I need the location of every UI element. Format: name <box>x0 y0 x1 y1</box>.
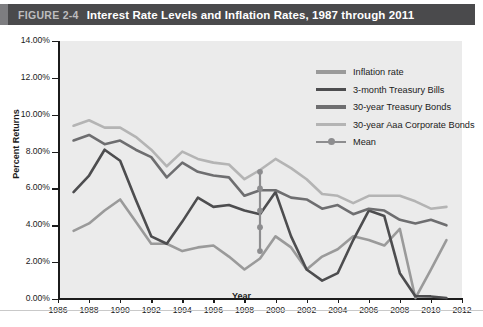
header-accent-block <box>0 4 8 25</box>
legend-item[interactable]: 30-year Treasury Bonds <box>316 102 475 112</box>
legend-line-marker-icon <box>316 141 346 144</box>
mean-marker-point <box>257 208 263 214</box>
mean-marker-point <box>257 169 263 175</box>
legend-item-label: Inflation rate <box>353 67 404 77</box>
mean-marker-point <box>257 248 263 254</box>
mean-marker-point <box>257 224 263 230</box>
legend-line-icon <box>316 123 346 126</box>
legend-line-icon <box>316 88 346 91</box>
legend-item-label: 30-year Aaa Corporate Bonds <box>353 120 475 130</box>
mean-marker-point <box>257 186 263 192</box>
legend-item[interactable]: Inflation rate <box>316 67 475 77</box>
legend-item[interactable]: Mean <box>316 137 475 147</box>
figure-number: FIGURE 2-4 <box>18 9 79 21</box>
figure-container: FIGURE 2-4 Interest Rate Levels and Infl… <box>0 0 483 327</box>
figure-title: Interest Rate Levels and Inflation Rates… <box>87 9 414 21</box>
chart-panel: 0.00%2.00%4.00%6.00%8.00%10.00%12.00%14.… <box>0 27 483 299</box>
figure-header-bar: FIGURE 2-4 Interest Rate Levels and Infl… <box>8 4 475 25</box>
chart-legend: Inflation rate3-month Treasury Bills30-y… <box>316 67 475 147</box>
legend-item-label: Mean <box>353 137 376 147</box>
legend-line-icon <box>316 70 346 73</box>
footer-rule <box>0 310 483 311</box>
x-axis-title: Year <box>0 291 483 301</box>
legend-item-label: 3-month Treasury Bills <box>353 85 444 95</box>
legend-item[interactable]: 30-year Aaa Corporate Bonds <box>316 120 475 130</box>
legend-item-label: 30-year Treasury Bonds <box>353 102 451 112</box>
legend-line-icon <box>316 105 346 108</box>
legend-item[interactable]: 3-month Treasury Bills <box>316 85 475 95</box>
